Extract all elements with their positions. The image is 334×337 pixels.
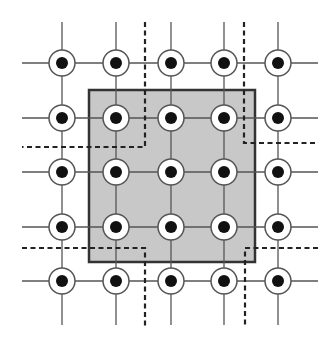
node-dot-icon [272,166,284,178]
grid-node [103,159,129,185]
grid-node [158,50,184,76]
node-dot-icon [110,112,122,124]
grid-node [265,50,291,76]
grid-node [49,268,75,294]
grid-node [103,268,129,294]
node-dot-icon [56,57,68,69]
node-dot-icon [272,57,284,69]
node-dot-icon [218,57,230,69]
node-dot-icon [272,221,284,233]
grid-diagram [0,0,334,337]
node-dot-icon [165,166,177,178]
node-dot-icon [165,275,177,287]
grid-node [211,159,237,185]
grid-node [49,159,75,185]
grid-node [158,214,184,240]
grid-node [103,214,129,240]
node-dot-icon [218,166,230,178]
grid-node [158,105,184,131]
node-dot-icon [110,275,122,287]
node-dot-icon [272,112,284,124]
grid-node [49,50,75,76]
node-dot-icon [56,221,68,233]
node-dot-icon [110,57,122,69]
grid-node [265,159,291,185]
grid-node [103,50,129,76]
grid-node [158,268,184,294]
node-dot-icon [218,275,230,287]
grid-node [49,214,75,240]
grid-node [211,214,237,240]
grid-node [265,268,291,294]
grid-node [158,159,184,185]
grid-node [265,214,291,240]
node-dot-icon [165,221,177,233]
grid-node [49,105,75,131]
node-dot-icon [165,57,177,69]
node-dot-icon [272,275,284,287]
node-dot-icon [110,221,122,233]
grid-node [103,105,129,131]
grid-node [265,105,291,131]
node-dot-icon [218,221,230,233]
node-dot-icon [218,112,230,124]
grid-node [211,105,237,131]
grid-node [211,50,237,76]
node-dot-icon [56,166,68,178]
node-dot-icon [110,166,122,178]
node-dot-icon [165,112,177,124]
grid-node [211,268,237,294]
node-dot-icon [56,112,68,124]
node-dot-icon [56,275,68,287]
